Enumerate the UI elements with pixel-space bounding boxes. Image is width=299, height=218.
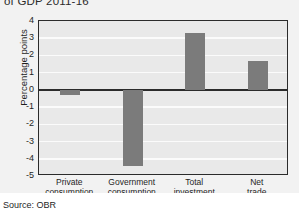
y-tick-label: 2 [8, 50, 34, 59]
y-tick-label: 4 [8, 16, 34, 25]
bar [248, 61, 268, 90]
y-tick-label: 0 [8, 84, 34, 93]
y-tick-label: -1 [8, 102, 34, 111]
plot-area [38, 20, 288, 175]
source-note: Source: OBR [3, 200, 56, 210]
y-tick-label: -5 [8, 171, 34, 180]
figure-container: of GDP 2011-16 Percentage points 43210-1… [0, 0, 299, 218]
y-tick-label: -4 [8, 153, 34, 162]
gridline [39, 106, 287, 108]
y-tick-label: -2 [8, 119, 34, 128]
gridline [39, 141, 287, 143]
y-tick-label: 3 [8, 33, 34, 42]
bar [60, 90, 80, 95]
gridline [39, 124, 287, 126]
gridline [39, 37, 287, 39]
gridline [39, 55, 287, 57]
gridline [39, 158, 287, 160]
y-tick-label: -3 [8, 136, 34, 145]
y-tick-label: 1 [8, 67, 34, 76]
bar [185, 33, 205, 90]
bar [123, 90, 143, 166]
